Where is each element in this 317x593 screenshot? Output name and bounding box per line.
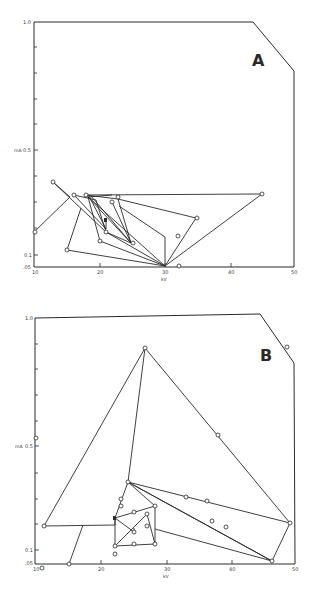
x-axis-label: kV (161, 277, 168, 282)
panel-a-plot: 1.0 0.5 0.1 .05 10 20 30 40 50 mA kV A (0, 0, 317, 296)
y-tick-0-5: 0.5 (25, 443, 33, 449)
y-tick-0-5: 0.5 (23, 147, 31, 153)
x-tick-20: 20 (98, 566, 104, 572)
filled-marker (104, 218, 107, 222)
connection-lines (34, 182, 262, 266)
filled-marker (113, 516, 116, 520)
y-tick-0-1: 0.1 (25, 547, 33, 553)
plot-frame (35, 314, 295, 564)
y-tick-0-05: .05 (25, 560, 33, 566)
y-tick-0-05: .05 (23, 264, 31, 270)
panel-b: 1.0 0.5 0.1 .05 10 20 30 40 50 mA kV B (0, 296, 317, 593)
x-tick-40: 40 (228, 269, 234, 275)
panel-b-plot: 1.0 0.5 0.1 .05 10 20 30 40 50 mA kV B (0, 296, 317, 593)
x-tick-40: 40 (229, 566, 235, 572)
x-axis-label: kV (163, 574, 170, 579)
panel-letter-b: B (260, 346, 272, 365)
panel-letter-a: A (252, 51, 265, 70)
x-tick-20: 20 (97, 269, 103, 275)
y-axis-label: mA (14, 148, 22, 153)
x-tick-30: 30 (164, 566, 170, 572)
panel-a: 1.0 0.5 0.1 .05 10 20 30 40 50 mA kV A (0, 0, 317, 296)
x-tick-10: 10 (33, 566, 39, 572)
x-tick-50: 50 (291, 269, 297, 275)
y-axis-label: mA (15, 444, 23, 449)
x-tick-30: 30 (162, 269, 168, 275)
y-tick-1-0: 1.0 (25, 315, 33, 321)
data-points (33, 180, 264, 268)
x-tick-50: 50 (292, 566, 298, 572)
connection-lines (44, 348, 290, 564)
y-tick-0-1: 0.1 (24, 252, 32, 258)
y-tick-1-0: 1.0 (23, 19, 31, 25)
x-tick-10: 10 (32, 269, 38, 275)
data-points (34, 345, 292, 570)
